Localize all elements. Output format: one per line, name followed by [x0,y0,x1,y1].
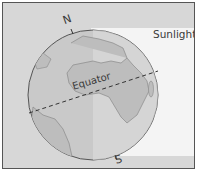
madagascar-landmass [149,81,154,97]
sunlight-label: Sunlight [153,28,195,40]
diagram-frame: Sunlight N S Equator [2,2,195,169]
